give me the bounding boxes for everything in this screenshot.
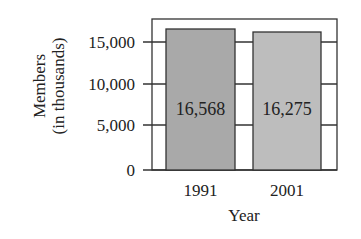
bar-value-label-1991: 16,568 [176,99,226,119]
bar-chart: 16,568 16,275 15,000 10,000 5,000 0 1991… [0,0,361,239]
y-axis-ticks: 15,000 10,000 5,000 0 [88,33,135,180]
bar-value-label-2001: 16,275 [262,99,312,119]
y-axis-title-line1: Members [30,54,49,118]
y-tick-label-5000: 5,000 [97,116,135,135]
y-tick-label-10000: 10,000 [88,75,135,94]
y-axis-title: Members (in thousands) [30,38,68,135]
y-tick-label-15000: 15,000 [88,33,135,52]
y-axis-title-line2: (in thousands) [49,38,68,135]
x-axis-title: Year [228,206,260,225]
x-axis-ticks: 1991 2001 [184,181,305,200]
y-tick-label-0: 0 [127,161,136,180]
x-tick-label-2001: 2001 [270,181,304,200]
x-tick-label-1991: 1991 [184,181,218,200]
